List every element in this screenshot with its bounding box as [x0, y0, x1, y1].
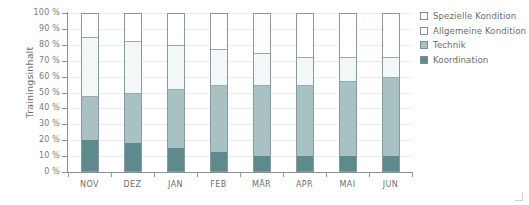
bar-segment-technik[interactable] — [253, 85, 271, 157]
bar-stack[interactable] — [124, 13, 142, 172]
bar-group[interactable] — [124, 13, 142, 172]
bar-segment-spezielle-kondition[interactable] — [167, 13, 185, 45]
bar-stack[interactable] — [339, 13, 357, 172]
grid-line — [68, 124, 412, 125]
bar-segment-koordination[interactable] — [296, 156, 314, 172]
legend-item-allgemeine-kondition[interactable]: Allgemeine Kondition — [420, 24, 529, 39]
y-tick-label: 40 % — [0, 103, 60, 112]
bar-segment-spezielle-kondition[interactable] — [296, 13, 314, 57]
bar-segment-spezielle-kondition[interactable] — [81, 13, 99, 37]
bar-segment-spezielle-kondition[interactable] — [210, 13, 228, 49]
bar-stack[interactable] — [296, 13, 314, 172]
bar-stack[interactable] — [382, 13, 400, 172]
bar-group[interactable] — [382, 13, 400, 172]
bar-segment-allgemeine-kondition[interactable] — [382, 57, 400, 77]
bar-stack[interactable] — [210, 13, 228, 172]
bar-segment-allgemeine-kondition[interactable] — [339, 57, 357, 81]
grid-line — [68, 108, 412, 109]
bar-segment-koordination[interactable] — [210, 152, 228, 172]
legend-swatch-icon — [420, 41, 428, 49]
x-axis-label-dez: DEZ — [110, 180, 156, 189]
bar-group[interactable] — [296, 13, 314, 172]
bar-segment-technik[interactable] — [124, 93, 142, 144]
chart-legend: Spezielle KonditionAllgemeine KonditionT… — [420, 9, 529, 67]
y-tick-label: 60 % — [0, 72, 60, 81]
x-tick-mark — [154, 172, 155, 177]
x-axis-label-apr: APR — [282, 180, 328, 189]
bar-segment-allgemeine-kondition[interactable] — [253, 53, 271, 85]
x-tick-mark — [369, 172, 370, 177]
bar-group[interactable] — [210, 13, 228, 172]
grid-line — [68, 93, 412, 94]
legend-item-technik[interactable]: Technik — [420, 38, 529, 53]
bar-segment-koordination[interactable] — [124, 143, 142, 172]
bar-segment-spezielle-kondition[interactable] — [339, 13, 357, 57]
bar-segment-allgemeine-kondition[interactable] — [167, 45, 185, 89]
bar-group[interactable] — [339, 13, 357, 172]
bar-segment-koordination[interactable] — [81, 140, 99, 172]
bar-segment-technik[interactable] — [382, 77, 400, 157]
corner-mark-icon — [515, 193, 523, 201]
legend-swatch-icon — [420, 12, 428, 20]
y-tick-label: 80 % — [0, 40, 60, 49]
bar-segment-technik[interactable] — [210, 85, 228, 153]
grid-line — [68, 29, 412, 30]
legend-label: Allgemeine Kondition — [433, 26, 526, 36]
x-tick-mark — [197, 172, 198, 177]
x-axis-label-mai: MAI — [325, 180, 371, 189]
x-axis-label-jun: JUN — [368, 180, 414, 189]
legend-item-koordination[interactable]: Koordination — [420, 53, 529, 68]
y-tick-label: 10 % — [0, 151, 60, 160]
bar-segment-koordination[interactable] — [339, 156, 357, 172]
bar-segment-technik[interactable] — [339, 81, 357, 157]
x-tick-mark — [111, 172, 112, 177]
y-tick-label: 70 % — [0, 56, 60, 65]
y-tick-label: 20 % — [0, 135, 60, 144]
x-tick-mark — [412, 172, 413, 177]
plot-area — [68, 13, 412, 172]
bar-group[interactable] — [167, 13, 185, 172]
bar-segment-allgemeine-kondition[interactable] — [124, 41, 142, 93]
bar-segment-spezielle-kondition[interactable] — [382, 13, 400, 57]
y-tick-label: 50 % — [0, 88, 60, 97]
bar-segment-spezielle-kondition[interactable] — [253, 13, 271, 53]
grid-line — [68, 13, 412, 14]
legend-label: Technik — [433, 40, 466, 50]
x-tick-mark — [283, 172, 284, 177]
x-axis-label-jan: JAN — [153, 180, 199, 189]
bar-segment-technik[interactable] — [296, 85, 314, 157]
legend-item-spezielle-kondition[interactable]: Spezielle Kondition — [420, 9, 529, 24]
bar-group[interactable] — [253, 13, 271, 172]
x-axis-label-mär: MÄR — [239, 180, 285, 189]
bar-stack[interactable] — [253, 13, 271, 172]
legend-label: Spezielle Kondition — [433, 11, 516, 21]
y-tick-label: 90 % — [0, 24, 60, 33]
bar-segment-koordination[interactable] — [253, 156, 271, 172]
x-axis-label-nov: NOV — [67, 180, 113, 189]
legend-label: Koordination — [433, 55, 488, 65]
x-tick-mark — [326, 172, 327, 177]
grid-line — [68, 45, 412, 46]
x-tick-mark — [240, 172, 241, 177]
grid-line — [68, 61, 412, 62]
x-axis-label-feb: FEB — [196, 180, 242, 189]
bar-segment-allgemeine-kondition[interactable] — [296, 57, 314, 85]
bar-segment-allgemeine-kondition[interactable] — [210, 49, 228, 85]
bar-group[interactable] — [81, 13, 99, 172]
bar-segment-koordination[interactable] — [167, 148, 185, 172]
bar-stack[interactable] — [167, 13, 185, 172]
bar-segment-technik[interactable] — [167, 89, 185, 149]
grid-line — [68, 140, 412, 141]
y-tick-label: 0 % — [0, 167, 60, 176]
grid-line — [68, 77, 412, 78]
bar-segment-technik[interactable] — [81, 96, 99, 140]
bar-segment-allgemeine-kondition[interactable] — [81, 37, 99, 97]
x-tick-mark — [68, 172, 69, 177]
y-axis-tick-labels: 0 %10 %20 %30 %40 %50 %60 %70 %80 %90 %1… — [0, 0, 60, 205]
bar-segment-spezielle-kondition[interactable] — [124, 13, 142, 41]
y-tick-label: 100 % — [0, 8, 60, 17]
legend-swatch-icon — [420, 56, 428, 64]
bar-segment-koordination[interactable] — [382, 156, 400, 172]
grid-line — [68, 156, 412, 157]
bar-stack[interactable] — [81, 13, 99, 172]
